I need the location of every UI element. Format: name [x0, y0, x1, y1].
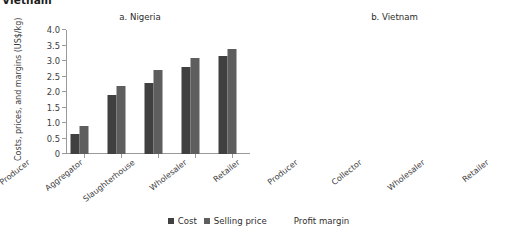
bar-group: [66, 30, 103, 154]
bar-group: [213, 30, 250, 154]
bar-pair: [181, 30, 208, 154]
chart-title-vietnam: b. Vietnam: [262, 12, 517, 22]
bar-group: [103, 30, 140, 154]
chart-legend: CostSelling priceProfit margin: [0, 216, 517, 226]
legend-label: Cost: [178, 216, 197, 226]
x-axis-label-cell: Retailer: [210, 154, 262, 214]
legend-label: Selling price: [214, 216, 267, 226]
bar-groups-nigeria: [66, 30, 250, 154]
bar-group: [140, 30, 177, 154]
chart-panel-nigeria: a. Nigeria Costs, prices, and margins (U…: [0, 8, 262, 223]
legend-item-price: Selling price: [204, 216, 267, 226]
y-axis-tick-label: 0.5: [47, 134, 60, 144]
bar-price: [117, 86, 126, 154]
y-axis-tick: [62, 122, 66, 123]
x-axis-label: Producer: [266, 158, 299, 187]
y-axis-tick-label: 4.0: [47, 25, 60, 35]
bar-pair: [144, 30, 171, 154]
x-axis-label-cell: Wholesaler: [390, 154, 454, 214]
legend-label: Profit margin: [294, 216, 349, 226]
bar-pair: [71, 30, 98, 154]
x-axis-label-cell: Retailer: [453, 154, 517, 214]
legend-swatch-icon: [168, 218, 174, 224]
bar-cost: [181, 67, 190, 154]
x-axis-label: Collector: [330, 158, 364, 187]
y-axis-label-nigeria: Costs, prices, and margins (US$/kg): [14, 41, 24, 161]
y-axis-tick-label: 2.5: [47, 72, 60, 82]
x-axis-label-cell: Collector: [326, 154, 390, 214]
bar-price: [80, 126, 89, 154]
bar-pair: [218, 30, 245, 154]
page-heading: Vietnam: [2, 0, 52, 6]
legend-swatch-icon: [284, 218, 290, 224]
bar-price: [153, 70, 162, 154]
y-axis-tick: [62, 138, 66, 139]
y-axis-tick: [62, 60, 66, 61]
bar-price: [190, 58, 199, 154]
bar-margin: [236, 146, 245, 154]
legend-item-margin: Profit margin: [284, 216, 349, 226]
y-axis-tick: [62, 107, 66, 108]
bar-margin: [162, 142, 171, 154]
x-axis-label-cell: Wholesaler: [157, 154, 209, 214]
x-axis-label: Retailer: [212, 158, 242, 184]
chart-title-nigeria: a. Nigeria: [0, 12, 262, 22]
legend-swatch-icon: [204, 218, 210, 224]
y-axis-tick-label: 3.5: [47, 41, 60, 51]
x-axis-labels-nigeria: ProducerAggregatorSlaughterhouseWholesal…: [0, 154, 262, 214]
bar-cost: [144, 83, 153, 154]
bar-margin: [126, 145, 135, 154]
x-axis-label: Wholesaler: [386, 158, 427, 193]
x-axis-label-cell: Producer: [262, 154, 326, 214]
bar-cost: [71, 134, 80, 154]
y-axis-tick: [62, 76, 66, 77]
y-axis-tick-label: 1.5: [47, 103, 60, 113]
bar-group: [176, 30, 213, 154]
plot-area-nigeria: 00.51.01.52.02.53.03.54.0: [66, 30, 250, 154]
x-axis-label: Producer: [0, 158, 32, 187]
x-axis-label: Retailer: [461, 158, 491, 184]
y-axis-tick-label: 1.0: [47, 118, 60, 128]
y-axis-tick: [62, 91, 66, 92]
chart-panel-vietnam: b. Vietnam Costs, prices, and margins (U…: [262, 8, 517, 223]
bar-pair: [108, 30, 135, 154]
bar-price: [227, 49, 236, 154]
bar-margin: [89, 146, 98, 154]
y-axis-tick-label: 3.0: [47, 56, 60, 66]
y-axis-tick: [62, 29, 66, 30]
x-axis-labels-vietnam: ProducerCollectorWholesalerRetailer: [262, 154, 517, 214]
bar-margin: [199, 145, 208, 154]
y-axis-tick-label: 2.0: [47, 87, 60, 97]
y-axis-tick: [62, 45, 66, 46]
bar-cost: [218, 56, 227, 154]
bar-cost: [108, 95, 117, 154]
legend-item-cost: Cost: [168, 216, 197, 226]
